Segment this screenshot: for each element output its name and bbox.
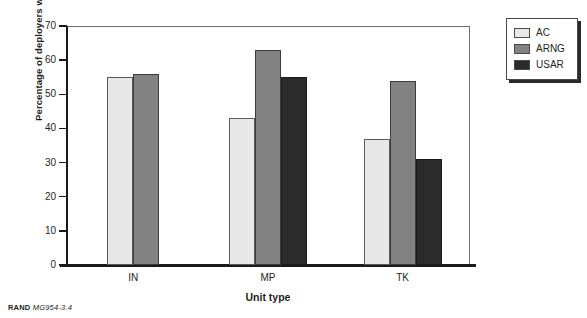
y-axis-tick-label: 0 [30,260,56,270]
bar-ac-tk [364,139,390,265]
figure-container: Percentage of deployers who are stable 0… [0,0,587,318]
credit-source: RAND [8,303,30,312]
legend-swatch-ac [514,28,530,38]
legend-item: ARNG [514,41,571,57]
y-axis-tick-label: 70 [30,21,56,31]
credit-figure-number: MG954-3.4 [33,303,72,312]
y-axis-tick-label: 20 [30,192,56,202]
legend-label-arng: ARNG [536,44,565,54]
bar-arng-mp [255,50,281,265]
y-axis-tick-label: 50 [30,89,56,99]
bar-ac-in [107,77,133,265]
x-axis-tick-label: IN [93,272,173,283]
bar-series-area [66,26,470,265]
bar-usar-mp [281,77,307,265]
bar-arng-in [133,74,159,265]
x-axis-tick-label: TK [363,272,443,283]
legend-item: AC [514,25,571,41]
y-axis-tick-label: 60 [30,55,56,65]
legend-item: USAR [514,57,571,73]
legend-label-usar: USAR [536,60,564,70]
y-axis-tick-label: 10 [30,226,56,236]
x-axis-label: Unit type [66,291,470,303]
legend-label-ac: AC [536,28,550,38]
bar-ac-mp [229,118,255,265]
y-axis-tick-label: 40 [30,123,56,133]
bar-arng-tk [390,81,416,265]
y-axis-tick-label: 30 [30,158,56,168]
legend-swatch-arng [514,44,530,54]
figure-credit: RAND MG954-3.4 [8,303,72,312]
legend-swatch-usar [514,60,530,70]
legend: AC ARNG USAR [506,18,578,80]
bar-usar-tk [416,159,442,265]
x-axis-tick-label: MP [228,272,308,283]
